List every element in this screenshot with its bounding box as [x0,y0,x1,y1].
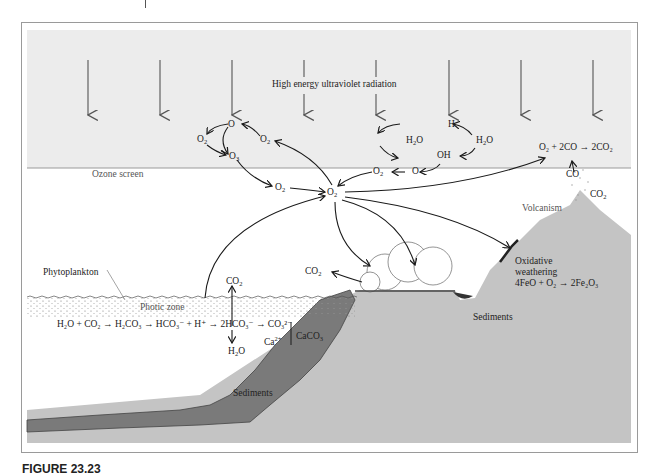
chem-h2o-right: H2O [476,136,493,147]
chem-o-right-chain: O [412,167,419,177]
chem-co2-volcano: CO2 [590,190,606,201]
arrow-h2o-to-h [453,124,472,135]
tree-canopy [360,272,380,292]
chem-h2o-ocean: H2O [228,347,245,358]
photic-zone [27,297,355,317]
arrow-center-to-o2r [275,141,332,185]
chem-o2-mid: O2 [275,183,285,194]
uv-radiation-label: High energy ultraviolet radiation [272,80,397,90]
chem-h: H [448,120,455,130]
caption-label: FIGURE 23.23 [22,462,101,476]
arrow-o3-to-o2 [237,160,272,186]
ozone-screen-label: Ozone screen [92,170,143,180]
arrow-trees-to-co2 [332,272,362,282]
arrow-center-to-trees-2 [335,202,370,266]
chem-co-volcano: CO [566,170,579,180]
photic-zone-label: Photic zone [140,303,185,313]
forest [360,242,452,292]
sediments-land-label: Sediments [473,313,513,323]
arrow-h2o-to-oh-right [460,148,475,156]
chem-h2o-left: H2O [406,136,423,147]
chem-o: O [228,120,235,130]
volcanism-label: Volcanism [522,204,562,214]
arrow-center-to-weathering [345,197,510,248]
arrow-h-to-h2o [378,124,400,133]
arrow-o2r-to-o [242,124,260,136]
reaction-co-oxidation: O₂ + 2CO → 2CO₂ [539,143,613,153]
chem-co2-plants: CO2 [305,267,321,278]
chem-o3: O3 [229,152,239,163]
oxidative-label-2: weathering [515,268,557,278]
chem-ca-ion: Ca2+ [264,336,281,348]
chem-o2-right-chain: O2 [373,167,383,178]
arrow-h2o-to-oh [380,146,398,158]
reaction-carbonate-chain: H₂O + CO₂ → H₂CO₃ → HCO₃⁻ + H⁺ → 2HCO₃⁻ … [57,320,292,330]
oxidative-label-1: Oxidative [515,257,552,267]
arrow-o2-to-center [290,188,325,192]
arrow-o-to-o3 [223,127,228,154]
sediments-sea-label: Sediments [233,389,273,399]
phytoplankton-leader [107,270,125,300]
tree-canopy [414,247,452,285]
chem-o2-center: O2 [327,188,337,199]
chem-o2-left: O2 [197,135,207,146]
chem-co2-ocean: CO2 [226,277,242,288]
phytoplankton-label: Phytoplankton [43,268,98,278]
arrow-o2-to-center [338,172,372,186]
chem-o2-right: O2 [260,135,270,146]
chem-oh: OH [437,151,451,161]
arrow-o2-to-o3 [207,145,226,155]
figure-caption: FIGURE 23.23 [22,462,101,476]
chem-caco3: CaCO3 [296,332,323,343]
reaction-iron-oxidation: 4FeO + O₂ → 2Fe₂O₃ [515,279,598,289]
arrow-phyto-to-center [205,196,325,298]
